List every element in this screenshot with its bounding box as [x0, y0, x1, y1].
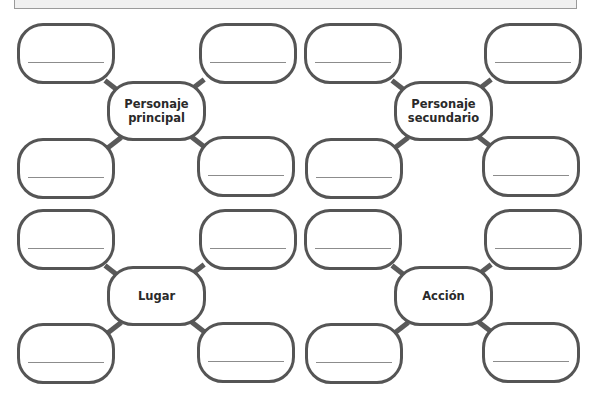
answer-box-top-left[interactable] [304, 23, 402, 84]
answer-box-bottom-right[interactable] [197, 322, 295, 383]
write-line [316, 362, 392, 363]
answer-box-bottom-left[interactable] [17, 138, 115, 199]
center-topic-label: Lugar [138, 289, 175, 303]
center-topic-label: Personaje principal [124, 97, 188, 125]
write-line [28, 248, 104, 249]
write-line [315, 62, 391, 63]
answer-box-bottom-left[interactable] [305, 323, 403, 384]
answer-box-bottom-left[interactable] [17, 323, 115, 384]
write-line [210, 248, 286, 249]
answer-box-bottom-right[interactable] [482, 322, 580, 383]
write-line [210, 62, 286, 63]
write-line [28, 362, 104, 363]
answer-box-bottom-left[interactable] [305, 138, 403, 199]
answer-box-top-left[interactable] [304, 209, 402, 270]
write-line [208, 175, 284, 176]
answer-box-top-right[interactable] [199, 23, 297, 84]
answer-box-top-right[interactable] [484, 23, 582, 84]
answer-box-top-left[interactable] [17, 209, 115, 270]
answer-box-bottom-right[interactable] [197, 136, 295, 197]
center-topic-box: Personaje principal [107, 81, 206, 141]
answer-box-bottom-right[interactable] [482, 136, 580, 197]
center-topic-box: Acción [394, 266, 493, 326]
write-line [28, 62, 104, 63]
write-line [493, 175, 569, 176]
answer-box-top-right[interactable] [484, 209, 582, 270]
write-line [316, 177, 392, 178]
center-topic-box: Personaje secundario [394, 81, 493, 141]
write-line [495, 62, 571, 63]
write-line [28, 177, 104, 178]
header-banner [14, 0, 577, 9]
write-line [208, 361, 284, 362]
write-line [495, 248, 571, 249]
write-line [315, 248, 391, 249]
center-topic-box: Lugar [107, 266, 206, 326]
answer-box-top-right[interactable] [199, 209, 297, 270]
write-line [493, 361, 569, 362]
center-topic-label: Personaje secundario [408, 97, 479, 125]
answer-box-top-left[interactable] [17, 23, 115, 84]
center-topic-label: Acción [422, 289, 465, 303]
